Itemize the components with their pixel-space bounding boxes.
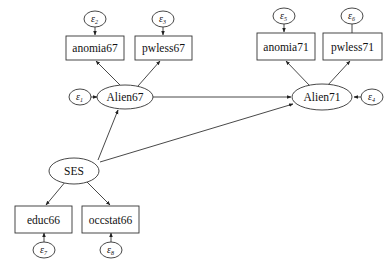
svg-text:Alien71: Alien71 [303, 91, 340, 103]
svg-text:pwless71: pwless71 [331, 41, 374, 54]
error-e3: ε3 [152, 11, 174, 27]
observed-pwless71: pwless71 [323, 33, 382, 60]
observed-pwless67: pwless67 [135, 36, 192, 60]
observed-occstat66: occstat66 [82, 206, 139, 233]
svg-text:occstat66: occstat66 [89, 214, 133, 226]
latent-alien71: Alien71 [292, 84, 352, 110]
edge-ses-occstat66 [86, 181, 110, 205]
error-e5: ε5 [273, 8, 295, 24]
edge-ses-alien67 [98, 110, 118, 160]
svg-text:SES: SES [64, 165, 84, 177]
error-e2: ε2 [84, 11, 106, 27]
edge-ses-alien71 [100, 104, 293, 162]
edge-alien67-anomia67 [96, 61, 120, 85]
svg-text:pwless67: pwless67 [142, 42, 185, 55]
latent-alien67: Alien67 [97, 85, 153, 109]
error-e8: ε8 [100, 242, 122, 258]
sem-path-diagram: ε2 ε3 ε5 ε6 ε1 ε4 ε7 ε8 anomia67 pwless6… [0, 0, 389, 269]
edge-alien71-pwless71 [327, 61, 350, 86]
edge-ses-educ66 [46, 181, 66, 205]
error-e6: ε6 [341, 8, 363, 24]
error-e7: ε7 [33, 242, 55, 258]
observed-educ66: educ66 [15, 206, 72, 233]
svg-text:anomia67: anomia67 [72, 42, 118, 54]
error-e1: ε1 [69, 89, 91, 105]
svg-text:anomia71: anomia71 [263, 41, 309, 53]
edge-alien71-anomia71 [286, 61, 310, 86]
svg-text:educ66: educ66 [27, 214, 60, 226]
latent-ses: SES [49, 158, 99, 184]
edge-alien67-pwless67 [138, 61, 160, 86]
observed-anomia71: anomia71 [257, 33, 315, 60]
error-e4: ε4 [361, 89, 383, 105]
observed-anomia67: anomia67 [66, 36, 124, 60]
svg-text:Alien67: Alien67 [106, 91, 143, 103]
